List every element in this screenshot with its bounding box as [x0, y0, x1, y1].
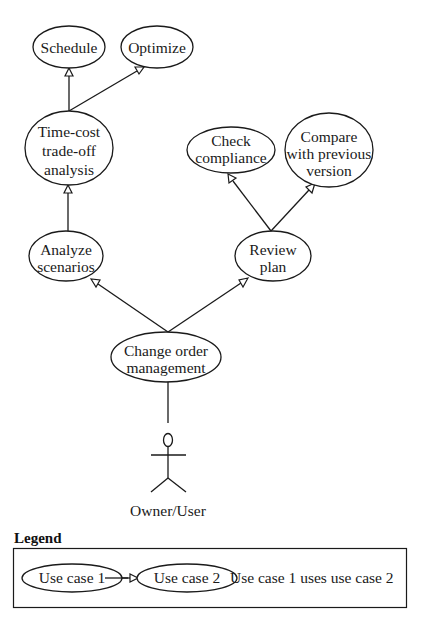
stick-figure-icon	[151, 434, 186, 493]
svg-text:Optimize: Optimize	[128, 39, 186, 56]
arrowhead-icon	[239, 278, 248, 287]
svg-text:management: management	[126, 359, 206, 376]
svg-text:Schedule: Schedule	[41, 39, 98, 56]
use-case-time-cost-trade-off-analysis[interactable]: Time-cost trade-off analysis	[25, 111, 113, 185]
svg-text:Use case 2: Use case 2	[154, 569, 220, 586]
legend-use-case-2: Use case 2	[137, 564, 237, 592]
svg-text:version: version	[306, 162, 352, 179]
actor-owner-user[interactable]: Owner/User	[130, 434, 207, 520]
svg-text:Check: Check	[211, 132, 251, 149]
use-case-diagram: Schedule Optimize Time-cost trade-off an…	[0, 0, 429, 621]
legend-description: Use case 1 uses use case 2	[230, 569, 394, 586]
svg-text:Use case 1: Use case 1	[39, 569, 105, 586]
svg-text:scenarios: scenarios	[37, 258, 95, 275]
svg-text:Change order: Change order	[124, 342, 209, 359]
svg-text:Analyze: Analyze	[40, 241, 92, 258]
use-case-review-plan[interactable]: Review plan	[235, 231, 311, 281]
arrowhead-icon	[64, 185, 72, 193]
actor-label: Owner/User	[130, 502, 207, 519]
use-case-check-compliance[interactable]: Check compliance	[187, 127, 275, 173]
edge-timecost-optimize	[69, 71, 137, 111]
use-case-optimize[interactable]: Optimize	[121, 26, 193, 68]
arrowhead-icon	[65, 68, 73, 76]
edge-review-compare	[271, 190, 309, 231]
svg-text:trade-off: trade-off	[42, 142, 97, 159]
arrowhead-icon	[228, 174, 236, 183]
use-case-schedule[interactable]: Schedule	[33, 26, 105, 68]
edge-changeorder-analyze	[98, 284, 168, 332]
svg-text:with previous: with previous	[287, 145, 372, 162]
use-case-analyze-scenarios[interactable]: Analyze scenarios	[29, 231, 103, 281]
svg-text:Review: Review	[249, 241, 297, 258]
edge-changeorder-review	[168, 283, 241, 332]
use-case-compare-with-previous-version[interactable]: Compare with previous version	[285, 113, 373, 187]
svg-text:plan: plan	[260, 258, 287, 275]
legend: Legend Use case 1 Use case 2 Use case 1 …	[14, 530, 407, 608]
edge-review-compliance	[233, 181, 271, 231]
svg-text:compliance: compliance	[195, 149, 267, 166]
legend-title: Legend	[14, 530, 62, 546]
svg-text:analysis: analysis	[44, 161, 94, 178]
svg-text:Time-cost: Time-cost	[38, 123, 101, 140]
arrowhead-icon	[91, 279, 100, 287]
use-case-change-order-management[interactable]: Change order management	[111, 332, 221, 382]
arrowhead-icon	[135, 67, 144, 74]
svg-text:Compare: Compare	[301, 128, 358, 145]
